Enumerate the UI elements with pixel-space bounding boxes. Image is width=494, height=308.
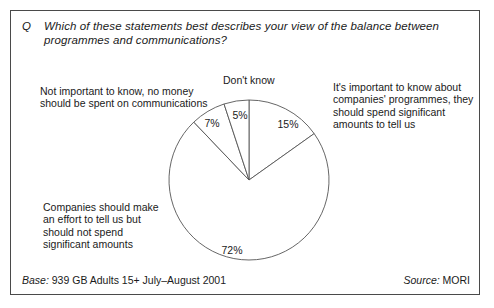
pie-slice: [249, 100, 314, 180]
pie-slice-group: [169, 100, 329, 260]
footer-source-value: MORI: [443, 274, 470, 286]
pie-value-5: 5%: [232, 109, 247, 121]
footer-source-key: Source:: [403, 274, 439, 286]
footer-base-value: 939 GB Adults 15+ July–August 2001: [52, 274, 226, 286]
pie-value-7: 7%: [204, 117, 219, 129]
footer: Base: 939 GB Adults 15+ July–August 2001…: [22, 274, 470, 286]
footer-base-key: Base:: [22, 274, 49, 286]
question-block: Q Which of these statements best describ…: [22, 19, 470, 47]
pie-label-not-important: Not important to know, no money should b…: [40, 85, 225, 110]
footer-base: Base: 939 GB Adults 15+ July–August 2001: [22, 274, 226, 286]
pie-value-72: 72%: [221, 244, 242, 256]
question-text: Which of these statements best describes…: [44, 19, 470, 47]
slide-canvas: Q Which of these statements best describ…: [0, 0, 494, 308]
pie-slice: [224, 100, 249, 180]
pie-slice: [169, 122, 329, 260]
question-marker: Q: [22, 19, 44, 33]
pie-label-dont-know: Don't know: [223, 74, 328, 86]
chart-frame: Q Which of these statements best describ…: [10, 10, 480, 295]
footer-source: Source: MORI: [403, 274, 470, 286]
pie-chart: 15% 72% 7% 5%: [11, 11, 481, 296]
pie-label-its-important: It's important to know about companies' …: [333, 81, 485, 131]
pie-value-15: 15%: [277, 118, 298, 130]
pie-label-companies-should: Companies should make an effort to tell …: [43, 201, 168, 251]
pie-slice: [194, 104, 249, 180]
